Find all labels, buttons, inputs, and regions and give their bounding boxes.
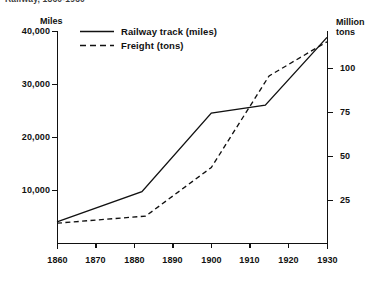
- chart-legend: Railway track (miles) Freight (tons): [80, 24, 217, 52]
- legend-label-freight: Freight (tons): [121, 40, 184, 51]
- left-axis-title: Miles: [40, 16, 63, 27]
- series-freight-line: [57, 42, 327, 223]
- legend-item-freight: Freight (tons): [80, 38, 217, 52]
- x-tick-label-1890: 1890: [152, 255, 193, 265]
- left-axis-ticks: [52, 32, 57, 191]
- x-tick-label-1920: 1920: [268, 255, 309, 265]
- x-tick-label-1900: 1900: [191, 255, 232, 265]
- railway-freight-line-chart: Railway, 1860-1930: [0, 0, 374, 284]
- right-axis-title-line2: tons: [336, 27, 355, 38]
- right-tick-label-100: 100: [340, 63, 355, 73]
- left-tick-label-20000: 20,000: [0, 132, 50, 142]
- x-tick-label-1860: 1860: [37, 255, 78, 265]
- dashed-line-icon: [80, 40, 114, 51]
- x-tick-label-1880: 1880: [114, 255, 155, 265]
- right-tick-label-75: 75: [340, 107, 350, 117]
- solid-line-icon: [80, 26, 114, 37]
- left-tick-label-40000: 40,000: [0, 26, 50, 36]
- right-tick-label-50: 50: [340, 151, 350, 161]
- left-tick-label-30000: 30,000: [0, 79, 50, 89]
- x-tick-label-1930: 1930: [307, 255, 348, 265]
- legend-label-railway-track: Railway track (miles): [121, 26, 217, 37]
- right-axis-title-line1: Million: [336, 17, 365, 28]
- left-tick-label-10000: 10,000: [0, 185, 50, 195]
- x-tick-label-1870: 1870: [75, 255, 116, 265]
- x-tick-label-1910: 1910: [229, 255, 270, 265]
- legend-item-railway-track: Railway track (miles): [80, 24, 217, 38]
- right-tick-label-25: 25: [340, 195, 350, 205]
- series-railway-track-line: [57, 37, 327, 221]
